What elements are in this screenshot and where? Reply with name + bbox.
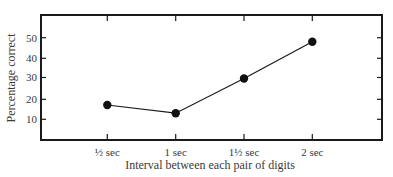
plot-frame	[41, 15, 382, 140]
x-tick-labels: ½ sec 1 sec 1½ sec 2 sec	[95, 146, 324, 158]
data-line	[107, 42, 312, 113]
data-markers	[103, 38, 316, 118]
chart-canvas: 50 40 30 20 10 Percentage correct ½ sec …	[0, 0, 393, 177]
y-tick-label: 10	[26, 113, 38, 125]
x-axis-ticks	[107, 15, 312, 140]
data-point	[308, 38, 316, 46]
x-tick-label: 1 sec	[165, 146, 187, 158]
y-tick-label: 20	[26, 93, 38, 105]
data-point	[172, 109, 180, 117]
x-tick-label: 1½ sec	[229, 146, 260, 158]
data-point	[240, 74, 248, 82]
y-tick-label: 40	[26, 52, 38, 64]
data-point	[103, 101, 111, 109]
x-axis-label: Interval between each pair of digits	[125, 158, 295, 172]
x-tick-label: 2 sec	[301, 146, 323, 158]
x-tick-label: ½ sec	[95, 146, 120, 158]
y-axis-label: Percentage correct	[4, 33, 18, 123]
y-tick-label: 50	[26, 32, 38, 44]
y-tick-label: 30	[26, 71, 38, 83]
y-tick-labels: 50 40 30 20 10	[26, 32, 38, 126]
